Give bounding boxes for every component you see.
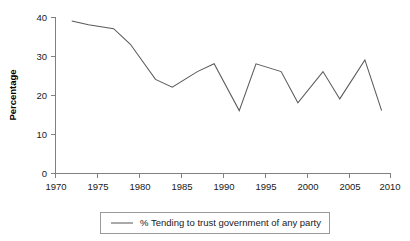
x-tick-label-2010: 2010 [379, 181, 400, 192]
x-tick-label-1990: 1990 [213, 181, 234, 192]
y-axis-title: Percentage [7, 69, 18, 120]
y-tick-label-20: 20 [36, 90, 47, 101]
y-tick-label-10: 10 [36, 129, 47, 140]
y-tick-marks [51, 18, 55, 174]
chart-container: 40 30 20 10 0 Percentage 1970 1975 1980 [0, 0, 410, 241]
series-line-trust-government [72, 21, 382, 111]
x-tick-label-1995: 1995 [255, 181, 276, 192]
legend-label-trust-government: % Tending to trust government of any par… [140, 217, 321, 228]
x-tick-label-2005: 2005 [339, 181, 360, 192]
legend: % Tending to trust government of any par… [101, 213, 330, 234]
y-axis: 40 30 20 10 0 Percentage [7, 12, 56, 179]
y-tick-label-0: 0 [42, 168, 47, 179]
y-tick-label-30: 30 [36, 51, 47, 62]
line-chart: 40 30 20 10 0 Percentage 1970 1975 1980 [0, 0, 410, 241]
x-axis: 1970 1975 1980 1985 1990 1995 2000 2005 … [45, 173, 400, 192]
x-tick-label-2000: 2000 [297, 181, 318, 192]
x-tick-label-1985: 1985 [171, 181, 192, 192]
y-tick-label-40: 40 [36, 12, 47, 23]
x-tick-label-1980: 1980 [129, 181, 150, 192]
x-tick-label-1970: 1970 [45, 181, 66, 192]
x-tick-label-1975: 1975 [87, 181, 108, 192]
